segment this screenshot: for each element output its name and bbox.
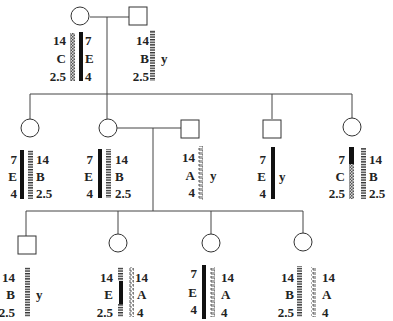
allele-label: 14 — [115, 152, 129, 167]
female-symbol-icon — [71, 7, 89, 25]
female-symbol-icon — [21, 119, 39, 137]
chromosome-wavy — [210, 267, 215, 317]
y-chromosome-label: y — [210, 168, 217, 183]
pedigree-diagram: 14 C 2.5 7 E 4 14 B 2.5 y 7 E 4 14 — [0, 0, 393, 321]
chromosome-solid — [79, 32, 83, 81]
allele-label: C — [336, 169, 345, 184]
allele-label: E — [85, 51, 94, 66]
chromosome-striped — [361, 148, 366, 199]
allele-label: 4 — [221, 305, 228, 320]
allele-label: B — [285, 287, 294, 302]
g3-female-2: 7 E 4 14 A 4 — [188, 234, 234, 320]
allele-label: 7 — [260, 152, 267, 167]
chromosome-solid — [202, 265, 206, 319]
allele-label: 14 — [36, 152, 50, 167]
chromosome-striped — [150, 30, 155, 81]
chromosome-solid — [271, 147, 275, 199]
allele-label: 4 — [85, 69, 92, 84]
allele-label: 7 — [87, 152, 94, 167]
male-symbol-icon — [18, 236, 36, 254]
allele-label: E — [188, 285, 197, 300]
allele-label: 2.5 — [115, 186, 132, 201]
allele-label: A — [221, 287, 231, 302]
g3-female-1: 14 E 2.5 14 A 4 — [97, 234, 149, 320]
allele-label: A — [137, 287, 147, 302]
chromosome-wavy — [198, 146, 203, 200]
generation-1: 14 C 2.5 7 E 4 14 B 2.5 y — [50, 7, 168, 94]
y-chromosome-label: y — [36, 287, 43, 302]
g2-female-3: 7 C 2.5 14 B 2.5 — [329, 118, 386, 201]
allele-label: 2.5 — [0, 305, 16, 320]
g3-female-3: 14 B 2.5 14 A 4 — [278, 233, 336, 320]
g2-female-1: 7 E 4 14 B 2.5 — [8, 119, 52, 201]
allele-label: 14 — [100, 270, 114, 285]
g3-male: 14 B 2.5 y — [0, 236, 43, 320]
chromosome-checkered — [70, 33, 75, 81]
chromosome-recombinant-checkered-part — [349, 164, 354, 199]
chromosome-recombinant-striped-top — [118, 267, 123, 281]
chromosome-wavy — [311, 267, 316, 317]
male-symbol-icon — [129, 7, 147, 25]
allele-label: B — [369, 169, 378, 184]
chromosome-recombinant-solid-middle — [119, 281, 123, 304]
male-symbol-icon — [263, 120, 281, 138]
allele-label: 2.5 — [133, 69, 150, 84]
female-symbol-icon — [294, 233, 312, 251]
g2-female-2: 7 E 4 14 B 2.5 — [84, 119, 131, 201]
allele-label: 7 — [11, 152, 18, 167]
female-symbol-icon — [343, 118, 361, 136]
chromosome-recombinant-solid-part — [349, 147, 354, 164]
allele-label: E — [104, 287, 113, 302]
allele-label: 14 — [369, 152, 383, 167]
generation-2: 7 E 4 14 B 2.5 7 E 4 14 B 2.5 14 A 4 y — [8, 118, 385, 211]
g1-female: 14 C 2.5 7 E 4 — [50, 7, 94, 84]
female-symbol-icon — [202, 234, 220, 252]
female-symbol-icon — [99, 119, 117, 137]
allele-label: B — [115, 169, 124, 184]
allele-label: 4 — [189, 185, 196, 200]
y-chromosome-label: y — [279, 169, 286, 184]
allele-label: 14 — [182, 150, 196, 165]
allele-label: B — [6, 287, 15, 302]
allele-label: 7 — [339, 152, 346, 167]
g2-male-2: 7 E 4 y — [257, 120, 286, 201]
allele-label: 14 — [53, 33, 67, 48]
chromosome-recombinant-striped-bottom — [118, 304, 123, 317]
chromosome-wavy — [129, 267, 134, 317]
allele-label: E — [84, 169, 93, 184]
g1-male: 14 B 2.5 y — [129, 7, 168, 84]
y-chromosome-label: y — [161, 51, 168, 66]
chromosome-striped — [25, 267, 30, 317]
allele-label: 14 — [322, 270, 336, 285]
allele-label: 2.5 — [329, 186, 346, 201]
allele-label: E — [8, 169, 17, 184]
allele-label: 14 — [281, 270, 295, 285]
allele-label: B — [140, 51, 149, 66]
male-symbol-icon — [181, 120, 199, 138]
allele-label: 14 — [221, 270, 235, 285]
allele-label: 4 — [260, 186, 267, 201]
allele-label: 4 — [322, 305, 329, 320]
allele-label: 2.5 — [36, 186, 53, 201]
allele-label: C — [57, 51, 66, 66]
allele-label: 2.5 — [97, 305, 114, 320]
allele-label: 14 — [136, 33, 150, 48]
allele-label: 14 — [2, 270, 16, 285]
female-symbol-icon — [109, 234, 127, 252]
chromosome-striped — [106, 149, 111, 198]
allele-label: A — [186, 168, 196, 183]
allele-label: 2.5 — [50, 69, 67, 84]
chromosome-solid — [98, 149, 102, 198]
allele-label: B — [36, 169, 45, 184]
allele-label: 7 — [191, 266, 198, 281]
allele-label: 14 — [135, 270, 149, 285]
allele-label: 4 — [137, 305, 144, 320]
allele-label: 2.5 — [278, 305, 295, 320]
chromosome-solid — [20, 150, 24, 199]
allele-label: 4 — [11, 186, 18, 201]
g2-male-spouse: 14 A 4 y — [181, 120, 217, 200]
allele-label: 7 — [85, 33, 92, 48]
allele-label: E — [257, 169, 266, 184]
allele-label: A — [322, 287, 332, 302]
allele-label: 4 — [87, 186, 94, 201]
